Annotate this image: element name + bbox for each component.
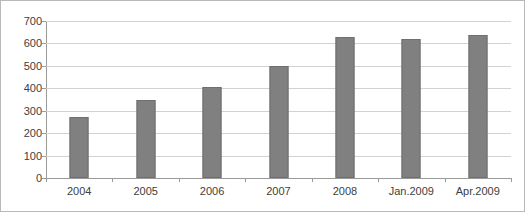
bar <box>335 37 354 178</box>
y-axis-tick-mark <box>42 43 46 44</box>
x-axis-tick-mark <box>46 178 47 182</box>
x-axis-tick-mark <box>112 178 113 182</box>
gridline-0 <box>46 178 511 179</box>
y-axis-tick-label: 600 <box>6 37 42 49</box>
x-axis-tick-mark <box>511 178 512 182</box>
y-axis-tick-mark <box>42 66 46 67</box>
bar <box>402 39 421 178</box>
gridline-600 <box>46 43 511 44</box>
gridline-700 <box>46 21 511 22</box>
y-axis-tick-label: 100 <box>6 150 42 162</box>
x-axis-tick-mark <box>179 178 180 182</box>
x-axis-tick-mark <box>245 178 246 182</box>
bar <box>269 66 288 178</box>
y-axis-tick-label: 300 <box>6 105 42 117</box>
y-axis-label-group: 0100200300400500600700 <box>1 21 42 178</box>
y-axis-tick-mark <box>42 111 46 112</box>
y-axis-tick-mark <box>42 156 46 157</box>
y-axis-tick-mark <box>42 88 46 89</box>
y-axis-tick-label: 0 <box>6 172 42 184</box>
y-axis-tick-label: 700 <box>6 15 42 27</box>
x-axis-tick-mark <box>445 178 446 182</box>
x-axis-tick-mark <box>378 178 379 182</box>
y-axis-tick-label: 200 <box>6 127 42 139</box>
y-axis-tick-mark <box>42 21 46 22</box>
x-axis-tick-mark <box>312 178 313 182</box>
y-axis-tick-label: 400 <box>6 82 42 94</box>
x-axis-tick-label: Apr.2009 <box>438 185 518 197</box>
bar <box>136 100 155 179</box>
bar-chart-figure: 0100200300400500600700 20042005200620072… <box>0 0 525 212</box>
bar <box>203 87 222 178</box>
y-axis-tick-mark <box>42 133 46 134</box>
y-axis-tick-label: 500 <box>6 60 42 72</box>
bar <box>468 35 487 178</box>
bar <box>70 117 89 178</box>
plot-area <box>46 21 511 178</box>
y-axis-tick-mark <box>42 178 46 179</box>
